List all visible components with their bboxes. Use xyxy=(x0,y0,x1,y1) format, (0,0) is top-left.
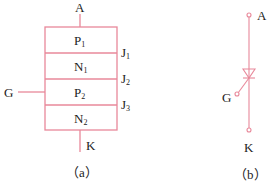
label-gate-a: G xyxy=(4,86,13,99)
junction-j2: J2 xyxy=(121,72,130,89)
caption-b: （b） xyxy=(234,168,267,181)
label-anode-a: A xyxy=(75,1,84,14)
layer-p2: P2 xyxy=(74,86,85,103)
junction-j1: J1 xyxy=(121,46,130,63)
junction-j3: J3 xyxy=(121,98,130,115)
gate-terminal-icon xyxy=(235,92,239,96)
label-cathode-b: K xyxy=(244,141,253,154)
diagram-graphics xyxy=(0,0,279,186)
gate-line xyxy=(238,78,249,93)
anode-terminal-icon xyxy=(247,13,251,17)
layer-n1: N1 xyxy=(74,60,87,77)
label-anode-b: A xyxy=(257,9,266,22)
label-cathode-a: K xyxy=(86,139,95,152)
label-gate-b: G xyxy=(222,91,231,104)
layer-n2: N2 xyxy=(74,112,87,129)
cathode-terminal-icon xyxy=(247,128,251,132)
layer-p1: P1 xyxy=(74,34,85,51)
caption-a: （a） xyxy=(66,166,98,179)
